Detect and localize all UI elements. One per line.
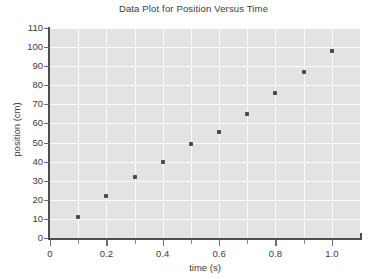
y-axis-tick-mark (44, 104, 48, 105)
gridline-vertical (332, 28, 333, 238)
y-axis-tick-label: 100 (3, 42, 43, 52)
y-axis-tick-mark (44, 238, 48, 239)
y-axis-tick-label: 0 (3, 233, 43, 243)
gridline-horizontal (50, 123, 360, 124)
gridline-vertical (135, 28, 136, 238)
gridline-horizontal (50, 143, 360, 144)
gridline-horizontal (50, 219, 360, 220)
y-axis-tick-mark (44, 47, 48, 48)
gridline-horizontal (50, 104, 360, 105)
x-axis-tick-mark (106, 240, 107, 246)
x-axis-tick-mark (163, 240, 164, 246)
y-axis-tick-mark (44, 85, 48, 86)
y-axis-tick-mark (44, 181, 48, 182)
y-axis-tick-label: 90 (3, 61, 43, 71)
data-point (104, 194, 108, 198)
y-axis-tick-mark (44, 66, 48, 67)
x-axis-tick-mark (78, 240, 79, 244)
y-axis-tick-mark (44, 143, 48, 144)
plot-area (50, 28, 360, 238)
x-axis-tick-mark (247, 240, 248, 244)
y-axis-tick-mark (44, 162, 48, 163)
data-point (245, 112, 249, 116)
x-axis-tick-mark (332, 240, 333, 246)
data-point (161, 160, 165, 164)
gridline-horizontal (50, 200, 360, 201)
x-axis-tick-label: 0.2 (86, 248, 126, 259)
y-axis-tick-label: 60 (3, 118, 43, 128)
x-axis-tick-label: 0.6 (199, 248, 239, 259)
data-point (189, 142, 193, 146)
y-axis-line (48, 27, 50, 240)
chart-title: Data Plot for Position Versus Time (0, 3, 387, 14)
gridline-horizontal (50, 162, 360, 163)
x-axis-tick-mark (304, 240, 305, 244)
gridline-vertical (304, 28, 305, 238)
data-point (273, 91, 277, 95)
x-axis-tick-mark (50, 240, 51, 246)
data-point (217, 130, 221, 134)
chart-figure: Data Plot for Position Versus Time posit… (0, 0, 387, 279)
x-axis-title: time (s) (50, 262, 360, 273)
gridline-vertical (275, 28, 276, 238)
gridline-vertical (78, 28, 79, 238)
x-axis-tick-mark (275, 240, 276, 246)
data-point (76, 215, 80, 219)
x-axis-tick-mark (219, 240, 220, 246)
y-axis-tick-mark (44, 219, 48, 220)
gridline-vertical (163, 28, 164, 238)
y-axis-tick-mark (44, 28, 48, 29)
y-axis-tick-mark (44, 123, 48, 124)
x-axis-line (48, 238, 362, 240)
gridline-horizontal (50, 181, 360, 182)
x-axis-tick-label: 0 (30, 248, 70, 259)
y-axis-tick-label: 70 (3, 99, 43, 109)
gridline-vertical (247, 28, 248, 238)
y-axis-tick-label: 40 (3, 157, 43, 167)
x-axis-tick-label: 0.4 (143, 248, 183, 259)
y-axis-tick-label: 10 (3, 214, 43, 224)
x-axis-tick-label: 1.0 (312, 248, 352, 259)
y-axis-tick-label: 20 (3, 195, 43, 205)
data-point (330, 49, 334, 53)
y-axis-tick-mark (44, 200, 48, 201)
gridline-horizontal (50, 66, 360, 67)
gridline-horizontal (50, 28, 360, 29)
gridline-vertical (191, 28, 192, 238)
x-axis-tick-label: 0.8 (255, 248, 295, 259)
data-point (302, 70, 306, 74)
gridline-horizontal (50, 47, 360, 48)
y-axis-tick-label: 110 (3, 23, 43, 33)
y-axis-tick-label: 30 (3, 176, 43, 186)
y-axis-tick-label: 80 (3, 80, 43, 90)
data-point (133, 175, 137, 179)
gridline-vertical (106, 28, 107, 238)
gridline-horizontal (50, 85, 360, 86)
x-axis-end-cap (360, 233, 362, 240)
x-axis-tick-mark (191, 240, 192, 244)
x-axis-tick-mark (135, 240, 136, 244)
y-axis-tick-label: 50 (3, 138, 43, 148)
